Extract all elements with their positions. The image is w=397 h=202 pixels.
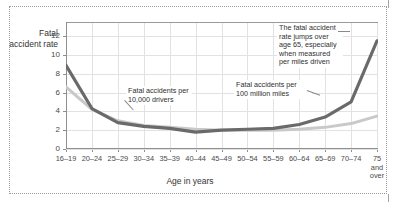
y-tick-label: 0 <box>46 144 60 153</box>
x-tick-label: 40–44 <box>183 155 209 164</box>
edge-tick-top <box>388 0 389 8</box>
x-tick-label: 20–24 <box>79 155 105 164</box>
annotation-age-jump: The fatal accident rate jumps over age 6… <box>277 23 343 68</box>
annotation-drivers: Fatal accidents per 10,000 drivers <box>126 86 192 105</box>
x-axis-title: Age in years <box>120 176 260 186</box>
x-tick-label: 45–49 <box>209 155 235 164</box>
x-tick-label: 30–34 <box>131 155 157 164</box>
y-tick-label: 6 <box>46 88 60 97</box>
x-tick-label: 16–19 <box>53 155 79 164</box>
x-tick-label: 35–39 <box>157 155 183 164</box>
x-tick-label: 25–29 <box>105 155 131 164</box>
y-tick-label: 12 <box>46 31 60 40</box>
x-tick-label: 75 and over <box>364 155 390 181</box>
x-tick-label: 70–74 <box>338 155 364 164</box>
x-tick-label: 50–54 <box>234 155 260 164</box>
gridline-horizontal <box>66 149 378 150</box>
y-tick-label: 8 <box>46 69 60 78</box>
annotation-miles: Fatal accidents per 100 million miles <box>234 80 312 99</box>
x-tick-label: 60–64 <box>286 155 312 164</box>
x-tick-label: 65–69 <box>312 155 338 164</box>
y-tick-label: 4 <box>46 106 60 115</box>
y-tick-label: 10 <box>46 50 60 59</box>
leader-line-jump <box>338 31 350 32</box>
figure-container: Fatal accident rate 024681012 16–1920–24… <box>0 0 397 202</box>
x-tick-label: 55–59 <box>260 155 286 164</box>
edge-tick-bottom <box>388 194 389 202</box>
series-line <box>66 87 377 130</box>
y-tick-label: 2 <box>46 125 60 134</box>
